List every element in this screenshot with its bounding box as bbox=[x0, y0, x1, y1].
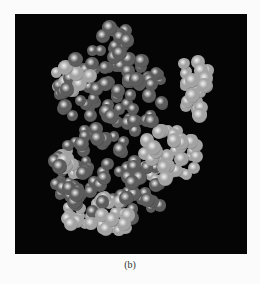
dark-atom-sphere bbox=[60, 82, 75, 97]
dark-atom-sphere bbox=[127, 114, 141, 128]
light-atom-sphere bbox=[197, 78, 212, 93]
dark-atom-sphere bbox=[113, 142, 127, 156]
dark-atom-sphere bbox=[74, 137, 89, 152]
figure-caption: (b) bbox=[0, 259, 260, 270]
light-atom-sphere bbox=[188, 162, 200, 174]
molecule-render-panel bbox=[15, 14, 247, 254]
light-atom-sphere bbox=[192, 108, 207, 123]
dark-atom-sphere bbox=[120, 33, 135, 48]
dark-atom-sphere bbox=[69, 187, 84, 202]
dark-atom-sphere bbox=[90, 131, 105, 146]
light-atom-sphere bbox=[185, 88, 199, 102]
dark-atom-sphere bbox=[134, 54, 148, 68]
dark-atom-sphere bbox=[52, 159, 66, 173]
light-atom-sphere bbox=[190, 150, 203, 163]
dark-atom-sphere bbox=[144, 114, 159, 129]
dark-atom-sphere bbox=[101, 158, 113, 170]
dark-atom-sphere bbox=[96, 29, 111, 44]
dark-atom-sphere bbox=[125, 175, 140, 190]
dark-atom-sphere bbox=[96, 195, 109, 208]
dark-atom-sphere bbox=[125, 89, 137, 101]
dark-atom-sphere bbox=[142, 88, 156, 102]
light-atom-sphere bbox=[174, 152, 189, 167]
dark-atom-sphere bbox=[111, 84, 125, 98]
light-atom-sphere bbox=[64, 217, 78, 231]
dark-atom-sphere bbox=[95, 45, 106, 56]
dark-atom-sphere bbox=[119, 191, 134, 206]
dark-atom-sphere bbox=[97, 171, 111, 185]
light-atom-sphere bbox=[105, 212, 119, 226]
figure: (b) bbox=[0, 0, 260, 284]
light-atom-sphere bbox=[158, 171, 173, 186]
light-atom-sphere bbox=[167, 133, 181, 147]
dark-atom-sphere bbox=[84, 109, 97, 122]
dark-atom-sphere bbox=[104, 109, 119, 124]
